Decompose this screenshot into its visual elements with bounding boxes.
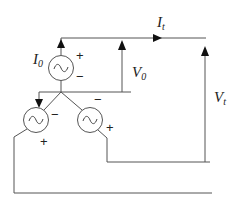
top-ac-source-icon [49, 56, 74, 93]
source-voltage-label: V0 [132, 64, 146, 82]
source-current-arrow-icon [57, 38, 65, 55]
top-source-plus-sign: + [76, 48, 84, 63]
y-junction-wires [44, 92, 82, 110]
lower-right-minus-sign: − [94, 92, 102, 107]
total-current-label: It [156, 14, 165, 32]
lower-left-plus-sign: + [40, 134, 48, 149]
total-voltage-arrow-icon [201, 46, 209, 162]
circuit-diagram: I0 It V0 Vt + − − + − + [0, 0, 235, 207]
lower-left-ac-source-icon [24, 108, 49, 133]
total-current-arrow-icon [153, 34, 162, 42]
lower-left-minus-sign: − [51, 107, 59, 122]
lower-right-plus-sign: + [106, 120, 114, 135]
source-voltage-arrow-icon [118, 40, 126, 92]
branch-current-arrow-icon [35, 92, 43, 108]
lower-right-ac-source-icon [78, 108, 103, 133]
top-source-minus-sign: − [76, 69, 84, 84]
total-voltage-label: Vt [214, 89, 226, 107]
right-return-wire [98, 130, 210, 162]
source-current-label: I0 [32, 51, 43, 69]
